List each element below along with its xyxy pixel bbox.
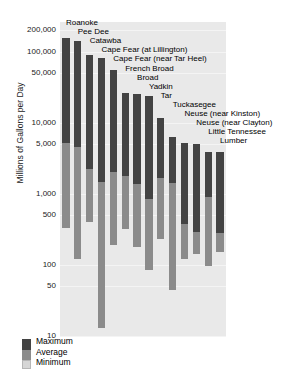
bar-segment-average: [193, 232, 200, 254]
y-tick-label: 1,000: [10, 190, 56, 198]
bar-segment-average: [157, 178, 164, 239]
y-tick-label: 10,000: [10, 119, 56, 127]
bar-segment-maximum: [193, 144, 200, 232]
bar-category-label: Tuckasegee: [173, 100, 216, 109]
bar-segment-average: [86, 169, 93, 222]
bar-category-label: Broad: [137, 73, 158, 82]
bar: [181, 143, 188, 259]
y-tick-label: 50: [10, 282, 56, 290]
bar-segment-average: [133, 184, 140, 246]
bar-segment-average: [122, 176, 129, 228]
bar: [216, 152, 223, 253]
y-tick-label: 500: [10, 211, 56, 219]
bar-category-label: Cape Fear (at Lillington): [102, 45, 188, 54]
bar-category-label: Lumber: [220, 136, 247, 145]
bar-segment-average: [181, 224, 188, 260]
gridline: [60, 194, 226, 195]
bar-category-label: Neuse (near Kinston): [185, 109, 261, 118]
bar: [169, 137, 176, 289]
bar-segment-average: [205, 197, 212, 266]
y-tick-label: 5,000: [10, 140, 56, 148]
legend-item-minimum: Minimum: [36, 357, 70, 367]
bar: [193, 144, 200, 254]
bar-segment-average: [62, 143, 69, 228]
bar: [205, 152, 212, 267]
legend-swatch-minimum: [22, 360, 31, 369]
bar-segment-average: [98, 182, 105, 328]
y-tick-label: 100: [10, 261, 56, 269]
bar-category-label: Neuse (near Clayton): [196, 118, 272, 127]
bar-category-label: Roanoke: [66, 18, 98, 27]
legend-swatch-maximum: [22, 339, 31, 350]
bar-category-label: Pee Dee: [78, 27, 109, 36]
bar-category-label: Yadkin: [149, 82, 173, 91]
legend-swatch-group: [22, 339, 31, 369]
bar-segment-maximum: [181, 143, 188, 224]
bar-segment-average: [169, 183, 176, 289]
gridline: [60, 336, 226, 337]
bar-segment-maximum: [205, 152, 212, 197]
range-bar-chart: Millions of Gallons per Day 200,000100,0…: [0, 0, 289, 382]
bar-category-label: Little Tennessee: [208, 127, 266, 136]
gridline: [60, 215, 226, 216]
bar-category-label: Cape Fear (near Tar Heel): [113, 54, 206, 63]
y-tick-label: 100,000: [10, 48, 56, 56]
bar-label-stack: RoanokePee DeeCatawbaCape Fear (at Lilli…: [60, 18, 289, 138]
bar-segment-average: [145, 199, 152, 270]
bar-segment-average: [74, 147, 81, 260]
y-tick-label: 50,000: [10, 69, 56, 77]
bar-segment-maximum: [216, 152, 223, 233]
bar-category-label: Catawba: [90, 36, 122, 45]
legend-swatch-average: [22, 350, 31, 360]
bar-segment-average: [216, 233, 223, 252]
legend-item-maximum: Maximum: [36, 336, 73, 346]
bar-segment-average: [110, 172, 117, 245]
y-axis-tick-labels: 200,000100,00050,00010,0005,0001,0005001…: [4, 0, 56, 382]
bar-category-label: Tar: [161, 91, 172, 100]
y-tick-label: 200,000: [10, 26, 56, 34]
legend-item-average: Average: [36, 347, 68, 357]
gridline: [60, 265, 226, 266]
gridline: [60, 286, 226, 287]
bar-category-label: French Broad: [125, 64, 173, 73]
gridline: [60, 144, 226, 145]
bar-segment-maximum: [169, 137, 176, 183]
